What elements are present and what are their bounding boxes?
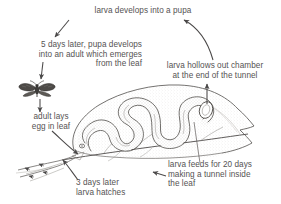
arrow-hatch [63,160,78,180]
arrow-chamber-to-pupa [184,20,213,60]
caption-pupa-develops-into-adult: 5 days later, pupa develops into an adul… [2,40,142,69]
caption-larva-hollows-out-chamber: larva hollows out chamber at the end of … [152,61,278,80]
leaf-miner-life-cycle-diagram: larva develops into a pupa 5 days later,… [0,0,281,204]
caption-larva-feeds: larva feeds for 20 days making a tunnel … [168,160,280,189]
leaf-stem-illustration [16,152,84,181]
caption-larva-develops-into-pupa: larva develops into a pupa [68,6,218,16]
arrow-to-adult-text [55,20,69,37]
caption-larva-hatches: 3 days later larva hatches [76,178,166,197]
arrow-feeds-to-tunnel [153,172,166,176]
egg-site [79,144,84,148]
leaf-illustration [62,85,254,161]
adult-moth-illustration [19,81,55,97]
caption-adult-lays-egg: adult lays egg in leaf [16,112,86,131]
